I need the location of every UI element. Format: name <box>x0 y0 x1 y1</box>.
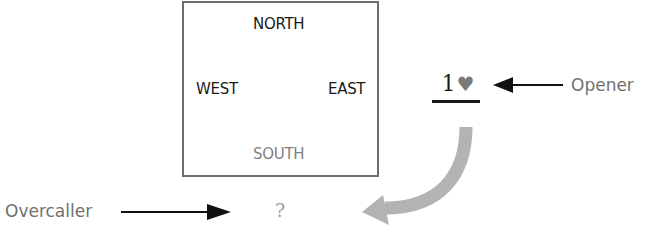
opener-label: Opener <box>571 75 634 95</box>
question-mark: ? <box>275 199 285 221</box>
overcaller-label: Overcaller <box>5 201 92 221</box>
curved-arrow-icon <box>362 127 466 225</box>
overcaller-arrow-icon <box>121 204 231 220</box>
opener-arrow-icon <box>493 77 563 93</box>
arrows-layer <box>0 0 651 238</box>
